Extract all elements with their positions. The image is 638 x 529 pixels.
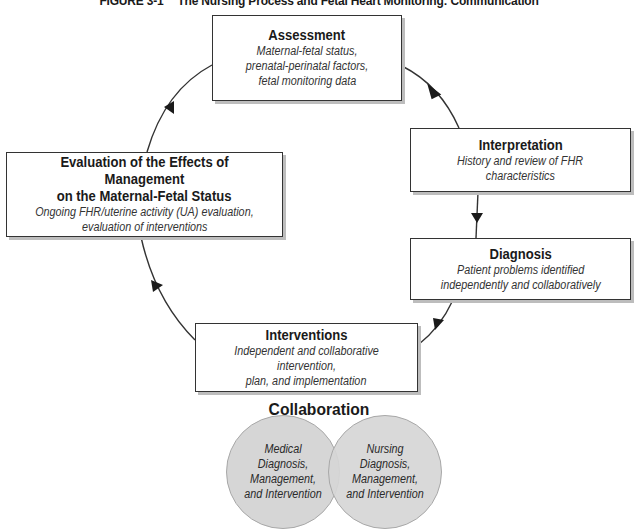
arrowhead-icon <box>471 213 483 223</box>
nursing-circle: Nursing Diagnosis, Management, and Inter… <box>328 415 442 529</box>
interpretation-detail-line-1: History and review of FHR <box>457 154 583 169</box>
connector-assessment-interpretation <box>402 66 459 128</box>
interpretation-box: Interpretation History and review of FHR… <box>410 128 631 192</box>
evaluation-heading-line-2: on the Maternal-Fetal Status <box>57 188 232 205</box>
collaboration-title: Collaboration <box>26 400 613 420</box>
assessment-heading: Assessment <box>269 27 346 44</box>
assessment-detail-line-1: Maternal-fetal status, <box>257 44 358 59</box>
assessment-detail-line-3: fetal monitoring data <box>258 74 356 89</box>
diagnosis-heading: Diagnosis <box>489 246 551 263</box>
diagnosis-box: Diagnosis Patient problems identified in… <box>410 238 631 300</box>
assessment-detail-line-2: prenatal-perinatal factors, <box>246 59 368 74</box>
assessment-box: Assessment Maternal-fetal status, prenat… <box>212 15 402 101</box>
arrowhead-icon <box>151 280 163 292</box>
interpretation-detail-line-2: characteristics <box>486 169 555 184</box>
medical-circle: Medical Diagnosis, Management, and Inter… <box>226 415 340 529</box>
evaluation-box: Evaluation of the Effects of Management … <box>6 152 283 237</box>
interventions-detail-line-1: Independent and collaborative interventi… <box>207 344 406 374</box>
diagnosis-detail-line-1: Patient problems identified <box>457 263 584 278</box>
interventions-box: Interventions Independent and collaborat… <box>195 323 418 392</box>
interventions-heading: Interventions <box>266 327 348 344</box>
interpretation-heading: Interpretation <box>478 137 562 154</box>
connector-interventions-evaluation <box>141 237 195 340</box>
evaluation-detail-line-1: Ongoing FHR/uterine activity (UA) evalua… <box>35 205 254 220</box>
medical-circle-label: Medical Diagnosis, Management, and Inter… <box>244 442 321 502</box>
connector-evaluation-assessment <box>147 65 212 152</box>
evaluation-heading-line-1: Evaluation of the Effects of Management <box>21 154 269 188</box>
diagnosis-detail-line-2: independently and collaboratively <box>441 278 601 293</box>
nursing-circle-label: Nursing Diagnosis, Management, and Inter… <box>346 442 423 502</box>
interventions-detail-line-2: plan, and implementation <box>246 374 367 389</box>
evaluation-detail-line-2: evaluation of interventions <box>82 220 207 235</box>
